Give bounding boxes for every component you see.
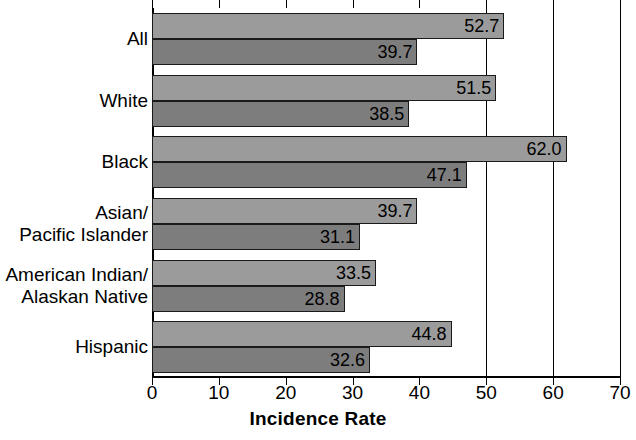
tick-top-60 xyxy=(553,0,554,8)
bar-value-label: 39.7 xyxy=(377,41,412,62)
bar-group: 51.538.5 xyxy=(152,75,620,127)
tick-top-0 xyxy=(152,0,153,8)
x-tick-label-60: 60 xyxy=(543,382,564,404)
bar-group: 52.739.7 xyxy=(152,13,620,65)
bar-male: 62.0 xyxy=(152,136,567,162)
bar-value-label: 31.1 xyxy=(320,226,355,247)
tick-top-70 xyxy=(620,0,621,8)
bar-male: 44.8 xyxy=(152,321,452,347)
bar-group: 33.528.8 xyxy=(152,260,620,312)
tick-top-30 xyxy=(353,0,354,8)
bar-female: 47.1 xyxy=(152,162,467,188)
bar-value-label: 51.5 xyxy=(456,77,491,98)
bar-value-label: 28.8 xyxy=(305,288,340,309)
incidence-rate-bar-chart: AllWhiteBlackAsian/Pacific IslanderAmeri… xyxy=(0,0,636,440)
bar-value-label: 33.5 xyxy=(336,262,371,283)
x-axis-title: Incidence Rate xyxy=(0,408,636,430)
x-tick-label-10: 10 xyxy=(208,382,229,404)
bar-group: 62.047.1 xyxy=(152,136,620,188)
bar-male: 52.7 xyxy=(152,13,504,39)
y-axis-label: American Indian/Alaskan Native xyxy=(0,264,148,308)
bar-female: 38.5 xyxy=(152,101,409,127)
bar-group: 44.832.6 xyxy=(152,321,620,373)
x-tick-label-0: 0 xyxy=(147,382,158,404)
x-tick-label-20: 20 xyxy=(275,382,296,404)
y-axis-label: White xyxy=(0,90,148,112)
y-axis-label: All xyxy=(0,28,148,50)
bar-value-label: 44.8 xyxy=(411,324,446,345)
y-axis-label: Hispanic xyxy=(0,336,148,358)
x-tick-label-70: 70 xyxy=(609,382,630,404)
bar-value-label: 52.7 xyxy=(464,15,499,36)
plot-area: 52.739.751.538.562.047.139.731.133.528.8… xyxy=(152,8,620,378)
gridline-70 xyxy=(620,8,621,378)
bar-value-label: 47.1 xyxy=(427,165,462,186)
x-tick-label-40: 40 xyxy=(409,382,430,404)
bar-group: 39.731.1 xyxy=(152,198,620,250)
bar-male: 51.5 xyxy=(152,75,496,101)
bar-female: 39.7 xyxy=(152,39,417,65)
tick-top-40 xyxy=(419,0,420,8)
tick-top-10 xyxy=(219,0,220,8)
y-axis-label: Black xyxy=(0,151,148,173)
tick-top-20 xyxy=(286,0,287,8)
bar-female: 32.6 xyxy=(152,347,370,373)
x-tick-label-30: 30 xyxy=(342,382,363,404)
bar-value-label: 39.7 xyxy=(377,200,412,221)
bar-male: 39.7 xyxy=(152,198,417,224)
y-axis-label: Asian/Pacific Islander xyxy=(0,202,148,246)
bar-value-label: 32.6 xyxy=(330,350,365,371)
bar-female: 31.1 xyxy=(152,224,360,250)
x-tick-label-50: 50 xyxy=(476,382,497,404)
tick-top-50 xyxy=(486,0,487,8)
bar-female: 28.8 xyxy=(152,286,345,312)
bar-male: 33.5 xyxy=(152,260,376,286)
bar-value-label: 38.5 xyxy=(369,103,404,124)
bar-value-label: 62.0 xyxy=(526,139,561,160)
